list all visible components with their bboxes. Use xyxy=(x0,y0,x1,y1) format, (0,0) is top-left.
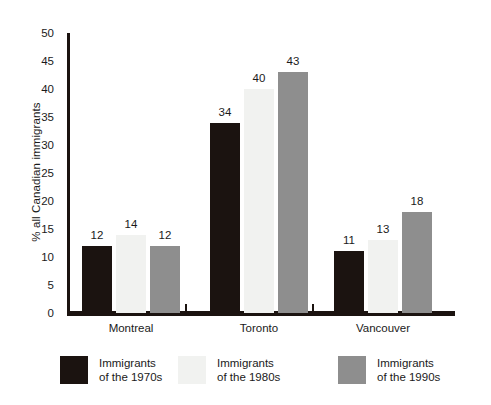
bar-value-label: 11 xyxy=(326,234,372,246)
bar[interactable]: 12 xyxy=(150,246,180,313)
bar-rect xyxy=(82,246,112,313)
y-tick-label: 15 xyxy=(2,223,62,235)
bar-value-label: 18 xyxy=(394,195,440,207)
bar-rect xyxy=(368,240,398,313)
bar[interactable]: 11 xyxy=(334,251,364,313)
legend-label-line1: Immigrants xyxy=(99,357,162,371)
bar-rect xyxy=(402,212,432,313)
bar-group: 111318 xyxy=(334,33,432,313)
bar[interactable]: 18 xyxy=(402,212,432,313)
chart-legend: Immigrantsof the 1970sImmigrantsof the 1… xyxy=(0,356,491,402)
bar-rect xyxy=(278,72,308,313)
bar-rect xyxy=(244,89,274,313)
legend-swatch xyxy=(338,356,366,384)
legend-label-line2: of the 1980s xyxy=(217,371,280,385)
y-tick-label: 50 xyxy=(2,27,62,39)
legend-label: Immigrantsof the 1980s xyxy=(217,356,280,384)
bar-group: 121412 xyxy=(82,33,180,313)
bar[interactable]: 40 xyxy=(244,89,274,313)
bar[interactable]: 43 xyxy=(278,72,308,313)
bar[interactable]: 34 xyxy=(210,123,240,313)
bar-value-label: 12 xyxy=(74,229,120,241)
y-tick-label: 0 xyxy=(2,307,62,319)
x-tick-label: Montreal xyxy=(61,322,201,334)
y-tick-label: 5 xyxy=(2,279,62,291)
x-tick-label: Vancouver xyxy=(313,322,453,334)
legend-label-line1: Immigrants xyxy=(377,357,440,371)
legend-swatch xyxy=(60,356,88,384)
bar-value-label: 14 xyxy=(108,218,154,230)
group-separator-tick xyxy=(185,304,187,313)
bar[interactable]: 14 xyxy=(116,235,146,313)
x-tick-label: Toronto xyxy=(189,322,329,334)
bar-rect xyxy=(116,235,146,313)
bar-chart: % all Canadian immigrants 05101520253035… xyxy=(0,0,491,405)
y-tick-label: 45 xyxy=(2,55,62,67)
bar-value-label: 13 xyxy=(360,223,406,235)
bar-rect xyxy=(210,123,240,313)
bar[interactable]: 12 xyxy=(82,246,112,313)
plot-area: 121412344043111318 xyxy=(70,33,455,313)
legend-item[interactable]: Immigrantsof the 1970s xyxy=(60,356,162,384)
bar-value-label: 43 xyxy=(270,55,316,67)
bar-rect xyxy=(150,246,180,313)
legend-swatch xyxy=(178,356,206,384)
y-tick-label: 35 xyxy=(2,111,62,123)
y-tick-label: 25 xyxy=(2,167,62,179)
bar-value-label: 12 xyxy=(142,229,188,241)
bar[interactable]: 13 xyxy=(368,240,398,313)
legend-item[interactable]: Immigrantsof the 1980s xyxy=(178,356,280,384)
y-tick-label: 40 xyxy=(2,83,62,95)
y-tick-label: 20 xyxy=(2,195,62,207)
legend-item[interactable]: Immigrantsof the 1990s xyxy=(338,356,440,384)
bar-value-label: 40 xyxy=(236,72,282,84)
y-tick-label: 30 xyxy=(2,139,62,151)
y-axis-tick-labels: 05101520253035404550 xyxy=(0,0,62,405)
legend-label: Immigrantsof the 1990s xyxy=(377,356,440,384)
bar-rect xyxy=(334,251,364,313)
bar-group: 344043 xyxy=(210,33,308,313)
bar-value-label: 34 xyxy=(202,106,248,118)
legend-label: Immigrantsof the 1970s xyxy=(99,356,162,384)
y-tick-label: 10 xyxy=(2,251,62,263)
legend-label-line2: of the 1990s xyxy=(377,371,440,385)
legend-label-line2: of the 1970s xyxy=(99,371,162,385)
legend-label-line1: Immigrants xyxy=(217,357,280,371)
group-separator-tick xyxy=(312,304,314,313)
